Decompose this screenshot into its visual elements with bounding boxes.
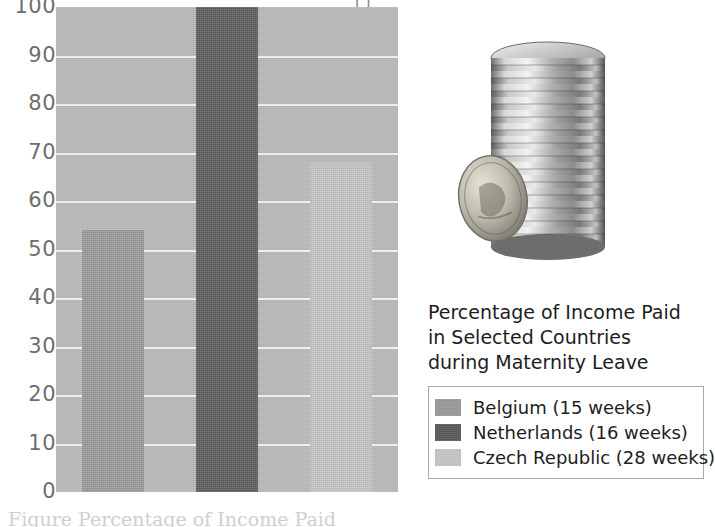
y-axis-tick-label: 40 [10, 287, 56, 308]
bottom-clipped-caption: Figure Percentage of Income Paid [8, 508, 408, 527]
legend-label: Belgium (15 weeks) [473, 397, 652, 418]
y-axis-tick-label: 100 [10, 0, 56, 17]
y-axis-tick-label: 10 [10, 433, 56, 454]
legend-swatch [435, 399, 461, 416]
legend-item[interactable]: Belgium (15 weeks) [435, 395, 697, 420]
bar[interactable] [196, 7, 258, 492]
caption-line-2: in Selected Countries [428, 325, 706, 350]
coin-stack-photo [446, 30, 636, 270]
legend-label: Czech Republic (28 weeks) [473, 447, 715, 468]
plot-area [56, 7, 398, 492]
y-axis-tick-label: 80 [10, 93, 56, 114]
y-axis-tick-label: 20 [10, 384, 56, 405]
right-column: Percentage of Income Paid in Selected Co… [424, 0, 707, 500]
y-axis-tick-label: 0 [10, 481, 56, 502]
legend-item[interactable]: Netherlands (16 weeks) [435, 420, 697, 445]
bar-chart: 11 1009080706050403020100 [0, 0, 420, 500]
chart-legend: Belgium (15 weeks)Netherlands (16 weeks)… [428, 386, 704, 479]
y-axis-tick-label: 90 [10, 45, 56, 66]
figure-caption: Percentage of Income Paid in Selected Co… [428, 300, 706, 375]
bar[interactable] [310, 162, 372, 492]
bar[interactable] [82, 230, 144, 492]
caption-line-1: Percentage of Income Paid [428, 300, 706, 325]
legend-item[interactable]: Czech Republic (28 weeks) [435, 445, 697, 470]
caption-line-3: during Maternity Leave [428, 350, 706, 375]
y-axis-tick-label: 30 [10, 336, 56, 357]
y-axis-tick-label: 50 [10, 239, 56, 260]
y-axis-tick-label: 60 [10, 190, 56, 211]
legend-label: Netherlands (16 weeks) [473, 422, 688, 443]
legend-swatch [435, 449, 461, 466]
y-axis-tick-label: 70 [10, 142, 56, 163]
legend-swatch [435, 424, 461, 441]
